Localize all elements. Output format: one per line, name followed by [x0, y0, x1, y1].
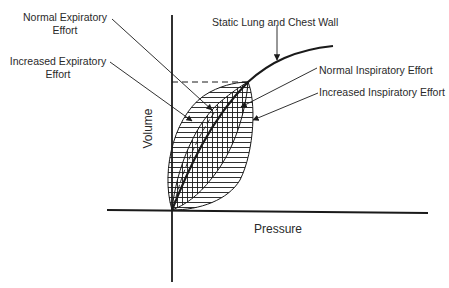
x-axis	[107, 210, 428, 213]
x-axis-label: Pressure	[254, 223, 302, 236]
label-line: Effort	[8, 68, 108, 81]
label-line: Normal Expiratory	[20, 11, 110, 24]
label-line: Effort	[20, 24, 110, 37]
pv-loop-diagram: Normal Expiratory Effort Increased Expir…	[0, 0, 449, 288]
label-normal-expiratory: Normal Expiratory Effort	[20, 11, 110, 37]
label-increased-expiratory: Increased Expiratory Effort	[8, 55, 108, 81]
label-line: Increased Expiratory	[8, 55, 108, 68]
arrow-increased-inspiratory	[253, 93, 318, 120]
label-static-lung-chest-wall: Static Lung and Chest Wall	[212, 16, 338, 29]
diagram-graphics	[0, 0, 449, 288]
y-axis-label: Volume	[142, 104, 155, 154]
arrow-normal-inspiratory	[241, 68, 317, 107]
label-increased-inspiratory: Increased Inspiratory Effort	[319, 86, 445, 99]
label-normal-inspiratory: Normal Inspiratory Effort	[319, 64, 433, 77]
arrow-normal-expiratory	[112, 19, 212, 110]
